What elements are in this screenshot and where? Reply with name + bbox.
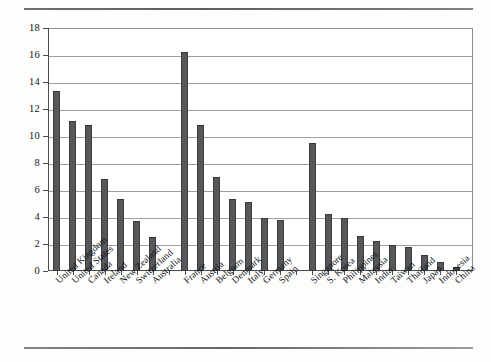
y-tick-label-6: 6 (14, 184, 40, 195)
y-tick-label-14: 14 (14, 76, 40, 87)
y-tick-label-18: 18 (14, 22, 40, 33)
bar-france (181, 52, 188, 271)
y-tick-label-2: 2 (14, 238, 40, 249)
y-tick-label-10: 10 (14, 130, 40, 141)
bar-series (48, 28, 473, 271)
bar-belgium (213, 177, 220, 272)
x-axis-tick-labels: United KingdomUnited StatesCanadaIreland… (0, 276, 491, 362)
scanned-page: 024681012141618 United KingdomUnited Sta… (0, 0, 491, 362)
bar-singapore (309, 143, 316, 271)
y-tick-label-12: 12 (14, 103, 40, 114)
bar-germany (261, 218, 268, 271)
page-rule-top (24, 8, 473, 10)
bar-austria (197, 125, 204, 271)
y-tick-label-0: 0 (14, 265, 40, 276)
bar-united-states (69, 121, 76, 271)
y-tick-label-8: 8 (14, 157, 40, 168)
y-tick-label-4: 4 (14, 211, 40, 222)
bar-united-kingdom (53, 91, 60, 271)
y-tick-label-16: 16 (14, 49, 40, 60)
